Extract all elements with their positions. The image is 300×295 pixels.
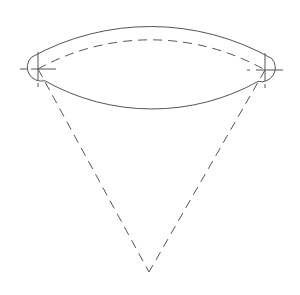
- right-center-crosshair: [247, 53, 283, 88]
- left-radial-line: [38, 69, 149, 272]
- right-radial-line: [149, 70, 265, 272]
- slot-inner-edge: [45, 81, 258, 109]
- slot-outer-edge: [31, 27, 272, 59]
- left-center-crosshair: [20, 52, 56, 87]
- slot-centerline: [38, 40, 265, 70]
- curved-slot-diagram: [0, 0, 300, 295]
